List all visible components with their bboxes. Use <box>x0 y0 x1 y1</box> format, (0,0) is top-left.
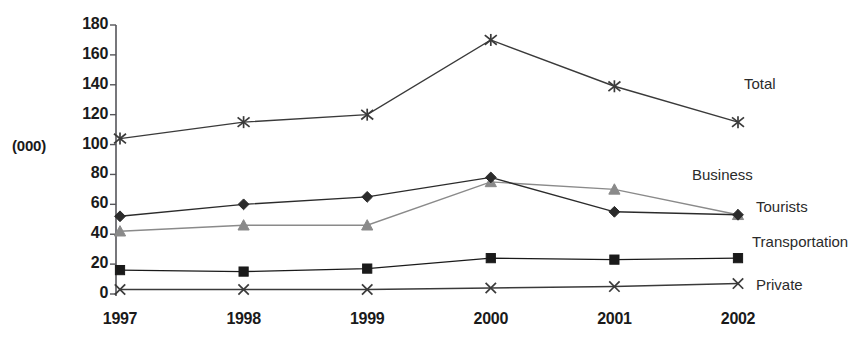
data-point-marker <box>733 254 742 263</box>
y-axis-tick-label: 180 <box>40 15 108 33</box>
series-line-business <box>120 182 738 231</box>
data-point-marker <box>115 265 124 274</box>
line-chart: (000) 020406080100120140160180 199719981… <box>0 0 867 349</box>
data-point-marker <box>609 206 620 217</box>
y-axis-tick-label: 20 <box>40 254 108 272</box>
data-point-marker <box>485 34 497 46</box>
y-axis-tick-label: 60 <box>40 194 108 212</box>
y-axis-tick-label: 100 <box>40 135 108 153</box>
series-line-total <box>120 40 738 139</box>
series-label-transportation: Transportation <box>752 233 848 250</box>
series-line-transportation <box>120 258 738 271</box>
series-label-private: Private <box>756 276 803 293</box>
x-axis-tick-label-2001: 2001 <box>569 310 659 328</box>
y-axis-tick-label: 80 <box>40 164 108 182</box>
data-point-marker <box>486 254 495 263</box>
y-axis-tick-label: 140 <box>40 75 108 93</box>
series-label-business: Business <box>692 166 753 183</box>
series-label-tourists: Tourists <box>756 198 808 215</box>
data-point-marker <box>362 191 373 202</box>
data-point-marker <box>608 80 620 92</box>
y-axis-tick-label: 40 <box>40 224 108 242</box>
y-axis-tick-label: 160 <box>40 45 108 63</box>
data-point-marker <box>485 172 496 183</box>
data-point-marker <box>610 255 619 264</box>
x-axis-tick-label-1999: 1999 <box>322 310 412 328</box>
series-label-total: Total <box>744 75 776 92</box>
data-point-marker <box>363 264 372 273</box>
y-axis-tick-label: 120 <box>40 105 108 123</box>
x-axis-tick-label-2000: 2000 <box>446 310 536 328</box>
x-axis-tick-label-1998: 1998 <box>199 310 289 328</box>
x-axis-tick-label-2002: 2002 <box>693 310 783 328</box>
data-point-marker <box>732 116 744 128</box>
x-axis-tick-label-1997: 1997 <box>75 310 165 328</box>
series-line-tourists <box>120 177 738 216</box>
data-point-marker <box>238 199 249 210</box>
series-line-private <box>120 284 738 290</box>
data-point-marker <box>239 267 248 276</box>
y-axis-tick-label: 0 <box>40 284 108 302</box>
